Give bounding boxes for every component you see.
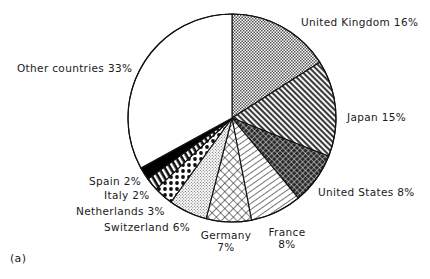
label-spain: Spain 2% (89, 175, 141, 187)
label-other-countries: Other countries 33% (17, 62, 132, 74)
label-germany: Germany 7% (193, 229, 259, 253)
label-switzerland: Switzerland 6% (104, 221, 190, 233)
label-france-name: France (268, 226, 305, 238)
label-germany-name: Germany (201, 229, 252, 241)
label-france: France 8% (259, 226, 315, 250)
label-italy: Italy 2% (104, 189, 150, 201)
label-japan: Japan 15% (347, 111, 406, 123)
pie-chart-figure: United Kingdom 16% Japan 15% United Stat… (0, 0, 430, 279)
label-germany-value: 7% (217, 241, 234, 253)
label-netherlands: Netherlands 3% (76, 205, 165, 217)
label-united-kingdom: United Kingdom 16% (301, 16, 418, 28)
figure-caption: (a) (10, 252, 26, 265)
label-france-value: 8% (278, 238, 295, 250)
label-united-states: United States 8% (318, 186, 415, 198)
pie-slices (128, 14, 336, 222)
